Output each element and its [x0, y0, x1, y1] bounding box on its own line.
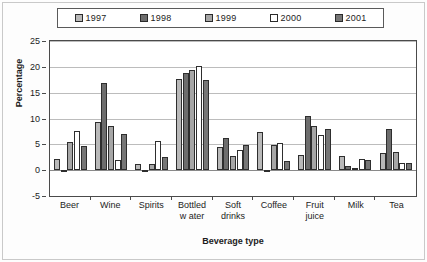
y-tick-mark [42, 119, 46, 120]
bar [61, 170, 67, 172]
y-tick-label: 20 [30, 62, 40, 72]
legend-item: 1998 [140, 13, 172, 23]
bar-group [294, 41, 335, 196]
bar [203, 80, 209, 170]
legend-item: 1997 [75, 13, 107, 23]
y-tick-mark [42, 93, 46, 94]
bar [325, 129, 331, 170]
x-tick-label: Softdrinks [213, 200, 254, 232]
y-tick-mark [42, 67, 46, 68]
x-tick-label: Wine [90, 200, 131, 232]
bar [155, 141, 161, 170]
bar [217, 147, 223, 170]
bar [108, 126, 114, 170]
x-axis-title: Beverage type [49, 236, 417, 246]
bar [264, 170, 270, 172]
bar [189, 70, 195, 170]
y-tick-label: 10 [30, 114, 40, 124]
bar [284, 161, 290, 170]
x-tick-label: Spirits [131, 200, 172, 232]
y-tick-label: -5 [32, 191, 40, 201]
bar [237, 150, 243, 170]
bar [406, 163, 412, 170]
bar [393, 152, 399, 171]
legend-label: 2000 [281, 13, 302, 23]
bar [54, 159, 60, 170]
bar [386, 129, 392, 170]
bar-group-bars [253, 41, 294, 196]
y-tick-label: 0 [35, 165, 40, 175]
bar [81, 146, 87, 170]
bar [149, 164, 155, 170]
legend-label: 1998 [151, 13, 172, 23]
x-tick-label: Bottledw ater [172, 200, 213, 232]
y-tick-label: 15 [30, 88, 40, 98]
bar-group-bars [213, 41, 254, 196]
bar [74, 131, 80, 170]
bar [243, 145, 249, 170]
legend-swatch-icon [205, 14, 213, 22]
y-tick-mark [42, 144, 46, 145]
bar [176, 79, 182, 170]
bar [298, 155, 304, 170]
legend-swatch-icon [335, 14, 343, 22]
x-tick-label: Milk [335, 200, 376, 232]
legend-label: 1999 [216, 13, 237, 23]
bar-group-bars [172, 41, 213, 196]
bar [121, 134, 127, 170]
bar-group [131, 41, 172, 196]
bar-chart-figure: 1997 1998 1999 2000 2001 2520151050-5 Pe… [0, 0, 427, 262]
x-tick-label: Coffee [253, 200, 294, 232]
bar-group-bars [50, 41, 91, 196]
y-tick-label: 5 [35, 139, 40, 149]
legend-label: 1997 [86, 13, 107, 23]
bar [345, 166, 351, 170]
bar [271, 145, 277, 170]
bar-group [213, 41, 254, 196]
bar [142, 170, 148, 172]
bar [135, 164, 141, 170]
bar-group [91, 41, 132, 196]
bar [230, 156, 236, 170]
y-axis-title: Percentage [14, 38, 24, 128]
x-tick-label: Fruitjuice [294, 200, 335, 232]
bar [223, 138, 229, 171]
bar-group-bars [335, 41, 376, 196]
bar-group-bars [91, 41, 132, 196]
legend-item: 2000 [270, 13, 302, 23]
bar-group [375, 41, 416, 196]
plot-area [49, 40, 417, 197]
x-tick-label: Beer [49, 200, 90, 232]
bar [95, 122, 101, 171]
bar-group [253, 41, 294, 196]
bar [339, 156, 345, 170]
bar [305, 116, 311, 170]
bar [101, 83, 107, 170]
x-axis-labels: BeerWineSpiritsBottledw aterSoftdrinksCo… [49, 200, 417, 232]
y-tick-mark [42, 170, 46, 171]
bar-groups [50, 41, 416, 196]
bar-group-bars [375, 41, 416, 196]
x-tick-label: Tea [376, 200, 417, 232]
bar [196, 66, 202, 170]
bar-group [50, 41, 91, 196]
bar-group-bars [294, 41, 335, 196]
bar [399, 163, 405, 170]
bar-group [335, 41, 376, 196]
bar [380, 153, 386, 171]
bar-group [172, 41, 213, 196]
y-tick-mark [42, 196, 46, 197]
legend-item: 1999 [205, 13, 237, 23]
bar-group-bars [131, 41, 172, 196]
chart-legend: 1997 1998 1999 2000 2001 [57, 8, 384, 28]
bar [183, 73, 189, 170]
bar [67, 142, 73, 170]
bar [162, 157, 168, 170]
bar [359, 159, 365, 170]
legend-swatch-icon [270, 14, 278, 22]
bar [277, 143, 283, 170]
legend-label: 2001 [346, 13, 367, 23]
legend-swatch-icon [75, 14, 83, 22]
bar [365, 160, 371, 170]
y-tick-mark [42, 41, 46, 42]
